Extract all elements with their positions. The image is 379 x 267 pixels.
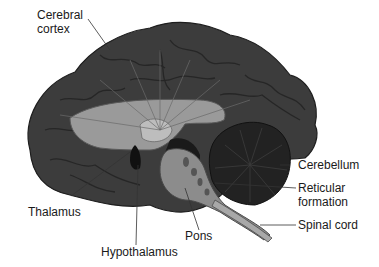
label-cerebral-cortex: Cerebral cortex bbox=[37, 8, 83, 36]
label-reticular-formation: Reticular formation bbox=[298, 181, 348, 209]
spinal-cord-shape bbox=[212, 200, 272, 242]
label-spinal-cord: Spinal cord bbox=[298, 218, 358, 232]
label-hypothalamus: Hypothalamus bbox=[101, 245, 178, 259]
label-pons: Pons bbox=[185, 229, 212, 243]
thalamus-shape bbox=[140, 119, 172, 142]
label-cerebellum: Cerebellum bbox=[298, 158, 359, 172]
label-thalamus: Thalamus bbox=[28, 205, 81, 219]
